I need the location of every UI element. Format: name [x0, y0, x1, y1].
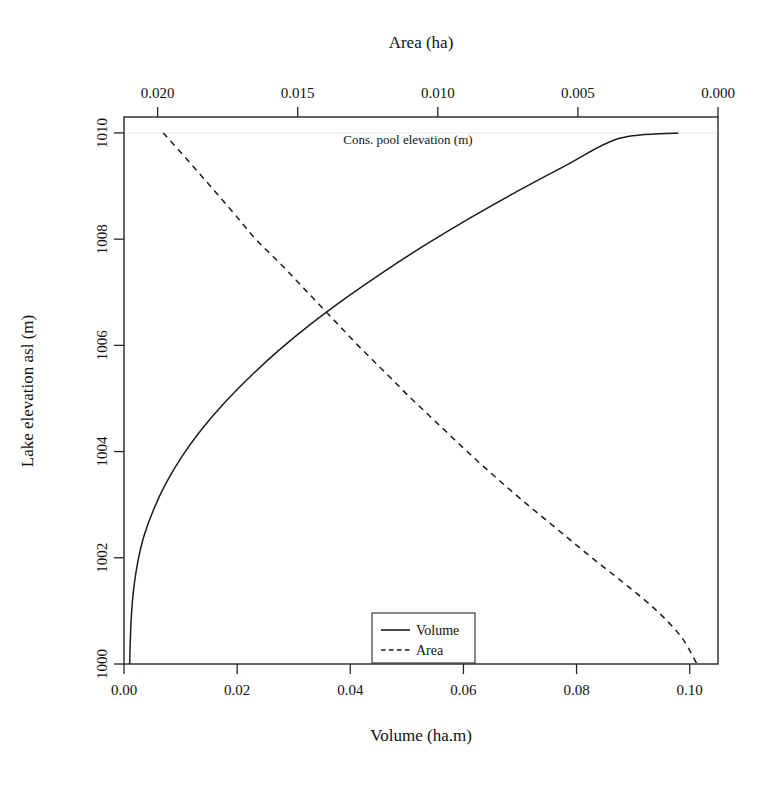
left-tick-label-3: 1006: [94, 330, 110, 361]
left-axis-ticks: [114, 133, 124, 664]
top-tick-label-4: 0.000: [701, 85, 735, 101]
top-tick-label-3: 0.005: [561, 85, 595, 101]
chart-legend[interactable]: Volume Area: [372, 613, 475, 663]
bottom-axis-tick-labels: 0.000.020.040.060.080.10: [111, 682, 703, 698]
left-tick-label-5: 1010: [94, 118, 110, 148]
bottom-tick-label-4: 0.08: [563, 682, 589, 698]
left-tick-label-0: 1000: [94, 649, 110, 679]
bottom-axis-ticks: [124, 664, 690, 674]
left-tick-label-1: 1002: [94, 543, 110, 573]
top-axis-tick-labels: 0.0200.0150.0100.0050.000: [141, 85, 735, 101]
top-axis-title: Area (ha): [389, 33, 454, 52]
plot-frame: [124, 117, 718, 664]
area-series-line: [163, 133, 697, 664]
left-axis-title: Lake elevation asl (m): [18, 315, 37, 467]
legend-label-area: Area: [416, 643, 444, 658]
top-tick-label-0: 0.020: [141, 85, 175, 101]
cons-pool-elevation-annotation: Cons. pool elevation (m): [343, 132, 472, 147]
bottom-tick-label-2: 0.04: [337, 682, 364, 698]
legend-label-volume: Volume: [416, 623, 459, 638]
chart-figure: Area (ha) 0.0200.0150.0100.0050.000 1000…: [0, 0, 765, 790]
bottom-tick-label-5: 0.10: [677, 682, 703, 698]
bottom-tick-label-1: 0.02: [224, 682, 250, 698]
lake-elevation-chart: Area (ha) 0.0200.0150.0100.0050.000 1000…: [0, 0, 765, 790]
top-tick-label-1: 0.015: [281, 85, 315, 101]
top-axis-ticks: [158, 107, 718, 117]
bottom-tick-label-3: 0.06: [450, 682, 477, 698]
left-axis-tick-labels: 100010021004100610081010: [94, 118, 110, 679]
volume-series-line: [130, 133, 679, 664]
top-tick-label-2: 0.010: [421, 85, 455, 101]
bottom-tick-label-0: 0.00: [111, 682, 137, 698]
left-tick-label-2: 1004: [94, 436, 110, 467]
left-tick-label-4: 1008: [94, 224, 110, 254]
bottom-axis-title: Volume (ha.m): [370, 726, 472, 745]
